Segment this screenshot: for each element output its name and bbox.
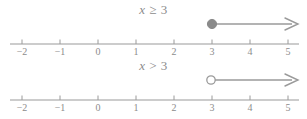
tick-label: 5	[276, 102, 300, 114]
axis-ticks	[22, 40, 288, 45]
tick-label: 1	[124, 102, 148, 114]
tick-label: −1	[48, 102, 72, 114]
number-line-figure: x ≥ 3 −2 −1 0 1 2	[0, 0, 307, 119]
endpoint-dot-filled	[207, 19, 216, 28]
tick-label: 0	[86, 102, 110, 114]
tick-label: −2	[10, 102, 34, 114]
tick-label: 2	[162, 102, 186, 114]
tick-label: 4	[238, 102, 262, 114]
endpoint-dot-open	[207, 76, 215, 84]
number-line-panel-inclusive: x ≥ 3 −2 −1 0 1 2	[0, 0, 307, 60]
axis-ticks	[22, 96, 288, 101]
tick-label: 3	[200, 102, 224, 114]
number-line-panel-strict: x > 3 −2 −1 0 1 2 3 4 5	[0, 56, 307, 116]
